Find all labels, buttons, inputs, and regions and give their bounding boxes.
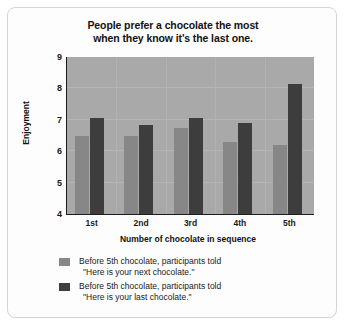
legend-swatch-2 — [59, 283, 70, 291]
bar-group-5th — [265, 57, 314, 214]
y-tick-label-5: 5 — [16, 178, 62, 188]
x-tick-label-5th: 5th — [264, 218, 314, 228]
plot-area — [67, 57, 314, 214]
y-tick-label-8: 8 — [16, 83, 62, 93]
bar-4th-series-1[interactable] — [223, 142, 237, 214]
chart-title-line-2: when they know it's the last one. — [8, 32, 338, 45]
y-tick-label-4: 4 — [16, 209, 62, 219]
bar-1st-series-1[interactable] — [75, 136, 89, 215]
bar-group-2nd — [116, 57, 165, 214]
x-axis-title: Number of chocolate in sequence — [48, 234, 328, 244]
bar-4th-series-2[interactable] — [238, 123, 252, 214]
legend-label-2-line-1: Before 5th chocolate, participants told — [79, 281, 319, 292]
bar-3rd-series-1[interactable] — [174, 128, 188, 214]
legend-entry-1[interactable]: Before 5th chocolate, participants told"… — [59, 256, 319, 278]
x-tick-label-1st: 1st — [67, 218, 117, 228]
chart-title: People prefer a chocolate the most when … — [8, 19, 338, 45]
x-axis-tick-labels: 1st2nd3rd4th5th — [67, 218, 314, 232]
bar-group-1st — [67, 57, 116, 214]
legend-entry-2[interactable]: Before 5th chocolate, participants told"… — [59, 281, 319, 303]
x-tick-label-4th: 4th — [215, 218, 265, 228]
legend: Before 5th chocolate, participants told"… — [59, 256, 319, 306]
y-tick-label-6: 6 — [16, 146, 62, 156]
y-tick-label-9: 9 — [16, 52, 62, 62]
plot-wrapper — [67, 57, 314, 214]
legend-label-2-line-2: "Here is your last chocolate." — [79, 292, 319, 303]
bar-group-4th — [215, 57, 264, 214]
x-tick-label-2nd: 2nd — [116, 218, 166, 228]
bar-5th-series-1[interactable] — [273, 145, 287, 214]
legend-label-1-line-2: "Here is your next chocolate." — [79, 267, 319, 278]
y-axis-tick-labels: 456789 — [8, 57, 62, 214]
legend-label-1-line-1: Before 5th chocolate, participants told — [79, 256, 319, 267]
x-axis-line — [66, 214, 314, 215]
y-tick-label-7: 7 — [16, 115, 62, 125]
bar-group-3rd — [166, 57, 215, 214]
x-tick-label-3rd: 3rd — [166, 218, 216, 228]
bar-5th-series-2[interactable] — [288, 84, 302, 214]
bar-2nd-series-1[interactable] — [124, 136, 138, 215]
figure-panel: People prefer a chocolate the most when … — [7, 7, 337, 318]
bar-2nd-series-2[interactable] — [139, 125, 153, 214]
chart-title-line-1: People prefer a chocolate the most — [8, 19, 338, 32]
bar-1st-series-2[interactable] — [90, 118, 104, 214]
y-axis-line — [66, 57, 67, 215]
bar-3rd-series-2[interactable] — [189, 118, 203, 214]
legend-swatch-1 — [59, 258, 70, 266]
